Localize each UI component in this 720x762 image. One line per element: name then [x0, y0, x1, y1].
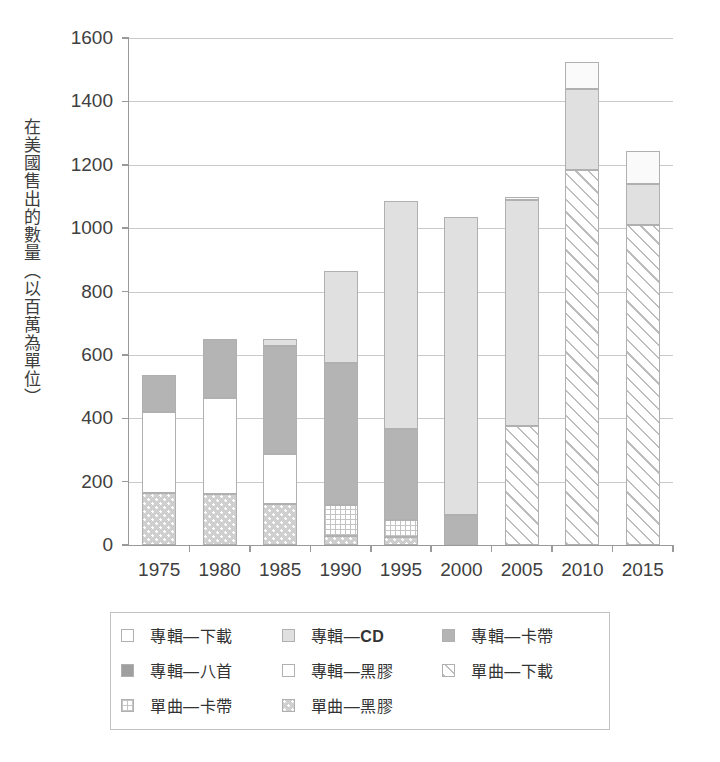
y-tick-mark [122, 164, 129, 166]
bar-segment-single_vinyl[interactable] [142, 493, 176, 545]
y-tick-label: 1600 [53, 27, 113, 49]
bar-segment-album_cd[interactable] [505, 200, 539, 427]
legend-swatch-icon [442, 664, 455, 677]
legend-label: 單曲—黑膠 [311, 693, 394, 717]
legend-item-3[interactable]: 專輯—八首 [121, 658, 282, 682]
legend-item-5[interactable]: 單曲—下載 [442, 658, 603, 682]
legend-label: 專輯—八首 [150, 658, 233, 682]
x-tick-mark [249, 545, 251, 552]
bar-segment-album_cassette[interactable] [203, 339, 237, 398]
legend-label: 專輯—卡帶 [471, 623, 554, 647]
bar-1975[interactable] [142, 38, 176, 545]
x-tick-mark [551, 545, 553, 552]
legend-item-7[interactable]: 單曲—黑膠 [282, 693, 443, 717]
bar-segment-single_vinyl[interactable] [203, 494, 237, 545]
y-tick-label: 600 [53, 344, 113, 366]
y-tick-mark [122, 481, 129, 483]
legend-swatch-icon [442, 629, 455, 642]
legend-label: 單曲—下載 [471, 658, 554, 682]
y-tick-mark [122, 37, 129, 39]
bar-segment-album_cd[interactable] [263, 339, 297, 346]
bar-segment-album_cassette[interactable] [142, 375, 176, 411]
bar-segment-album_cassette[interactable] [384, 429, 418, 519]
bar-segment-single_vinyl[interactable] [324, 536, 358, 546]
y-tick-mark [122, 101, 129, 103]
bar-segment-single_vinyl[interactable] [384, 537, 418, 545]
y-axis-title: 在美國售出的數量（以百萬為單位） [8, 118, 52, 468]
bar-segment-album_download[interactable] [626, 151, 660, 184]
legend-swatch-icon [121, 629, 134, 642]
x-tick-mark [370, 545, 372, 552]
bar-2005[interactable] [505, 38, 539, 545]
y-axis-title-text: 在美國售出的數量（以百萬為單位） [20, 118, 40, 406]
bar-segment-single_download[interactable] [505, 426, 539, 545]
y-tick-label: 1200 [53, 154, 113, 176]
plot-area: 0200400600800100012001400160019751980198… [128, 38, 673, 546]
bar-segment-single_cassette[interactable] [324, 505, 358, 535]
y-tick-label: 0 [53, 534, 113, 556]
legend-item-2[interactable]: 專輯—卡帶 [442, 623, 603, 647]
bar-segment-single_download[interactable] [626, 225, 660, 545]
legend-swatch-icon [282, 629, 295, 642]
legend-item-1[interactable]: 專輯—CD [282, 623, 443, 647]
y-tick-label: 200 [53, 471, 113, 493]
y-tick-mark [122, 291, 129, 293]
bar-2000[interactable] [444, 38, 478, 545]
legend-item-0[interactable]: 專輯—下載 [121, 623, 282, 647]
y-tick-label: 1000 [53, 217, 113, 239]
bar-segment-album_download[interactable] [565, 62, 599, 89]
bar-segment-album_cd[interactable] [565, 89, 599, 170]
chart-container: 在美國售出的數量（以百萬為單位） 02004006008001000120014… [0, 0, 720, 762]
bar-segment-album_cassette[interactable] [324, 363, 358, 506]
bar-segment-album_cd[interactable] [444, 217, 478, 515]
bar-1995[interactable] [384, 38, 418, 545]
x-tick-mark [430, 545, 432, 552]
legend-item-4[interactable]: 專輯—黑膠 [282, 658, 443, 682]
bar-segment-album_cassette[interactable] [444, 515, 478, 545]
legend-label: 專輯—CD [311, 623, 385, 647]
bar-segment-single_download[interactable] [565, 170, 599, 545]
legend-label: 專輯—下載 [150, 623, 233, 647]
x-tick-label: 2015 [608, 559, 678, 581]
legend-swatch-icon [282, 699, 295, 712]
bar-segment-single_cassette[interactable] [384, 520, 418, 537]
x-tick-mark [189, 545, 191, 552]
legend-item-6[interactable]: 單曲—卡帶 [121, 693, 282, 717]
bar-1990[interactable] [324, 38, 358, 545]
legend-swatch-icon [121, 664, 134, 677]
legend-swatch-icon [121, 699, 134, 712]
legend-label: 單曲—卡帶 [150, 693, 233, 717]
y-tick-mark [122, 418, 129, 420]
bar-segment-single_vinyl[interactable] [263, 504, 297, 545]
x-tick-mark [310, 545, 312, 552]
y-tick-mark [122, 354, 129, 356]
bar-segment-album_vinyl[interactable] [263, 454, 297, 505]
y-tick-label: 800 [53, 281, 113, 303]
chart-legend: 專輯—下載專輯—CD專輯—卡帶專輯—八首專輯—黑膠單曲—下載單曲—卡帶單曲—黑膠 [110, 612, 610, 730]
legend-swatch-icon [282, 664, 295, 677]
bar-segment-album_cd[interactable] [384, 201, 418, 429]
bar-segment-album_vinyl[interactable] [203, 398, 237, 495]
bar-1980[interactable] [203, 38, 237, 545]
bar-2015[interactable] [626, 38, 660, 545]
bar-segment-album_cassette[interactable] [263, 346, 297, 454]
x-tick-mark [491, 545, 493, 552]
y-tick-mark [122, 544, 129, 546]
bar-2010[interactable] [565, 38, 599, 545]
bar-segment-album_download[interactable] [505, 197, 539, 200]
x-tick-mark [672, 545, 674, 552]
y-tick-label: 1400 [53, 90, 113, 112]
y-tick-label: 400 [53, 407, 113, 429]
bar-segment-album_cd[interactable] [626, 184, 660, 225]
bar-1985[interactable] [263, 38, 297, 545]
bar-segment-album_cd[interactable] [324, 271, 358, 363]
bar-segment-album_vinyl[interactable] [142, 412, 176, 493]
x-tick-mark [612, 545, 614, 552]
y-tick-mark [122, 227, 129, 229]
legend-label: 專輯—黑膠 [311, 658, 394, 682]
